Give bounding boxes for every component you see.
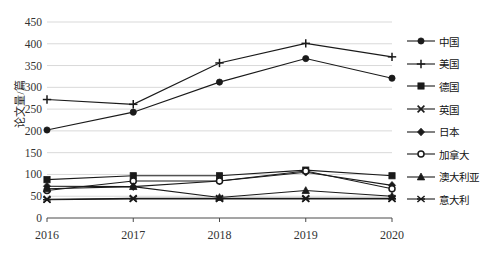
series-line	[47, 43, 392, 104]
legend-label: 美国	[439, 56, 459, 71]
series-加拿大	[44, 168, 395, 194]
legend-label: 中国	[439, 34, 459, 49]
star-marker-icon	[406, 192, 436, 206]
series-line	[47, 59, 392, 130]
x-axis-tick-label: 2020	[362, 228, 422, 243]
x-marker-icon	[406, 102, 436, 116]
x-axis-tick-label: 2018	[190, 228, 250, 243]
legend-item-澳大利亚[interactable]: 澳大利亚	[406, 166, 497, 189]
plus-marker-icon	[406, 57, 436, 71]
x-axis-tick-label: 2016	[17, 228, 77, 243]
x-axis	[47, 218, 392, 222]
legend-item-美国[interactable]: 美国	[406, 53, 497, 76]
x-axis-tick-label: 2017	[103, 228, 163, 243]
legend-item-英国[interactable]: 英国	[406, 98, 497, 121]
legend-item-德国[interactable]: 德国	[406, 75, 497, 98]
legend-item-意大利[interactable]: 意大利	[406, 188, 497, 211]
diamond-marker-icon	[406, 125, 436, 139]
x-axis-tick-label: 2019	[276, 228, 336, 243]
legend-label: 加拿大	[439, 147, 469, 162]
legend-label: 澳大利亚	[439, 169, 479, 184]
chart-legend: 中国美国德国英国日本加拿大澳大利亚意大利	[406, 30, 497, 211]
square-marker-icon	[406, 79, 436, 93]
legend-label: 德国	[439, 79, 459, 94]
triangle-marker-icon	[406, 170, 436, 184]
gridlines	[47, 22, 392, 196]
series-markers	[44, 168, 395, 194]
circle-marker-icon	[406, 34, 436, 48]
line-chart: 论文量/篇 050100150200250300350400450 201620…	[0, 0, 497, 257]
series-美国	[43, 39, 396, 108]
legend-label: 意大利	[439, 192, 469, 207]
open-circle-marker-icon	[406, 147, 436, 161]
legend-item-加拿大[interactable]: 加拿大	[406, 143, 497, 166]
legend-item-日本[interactable]: 日本	[406, 120, 497, 143]
legend-item-中国[interactable]: 中国	[406, 30, 497, 53]
legend-label: 日本	[439, 124, 459, 139]
legend-label: 英国	[439, 102, 459, 117]
